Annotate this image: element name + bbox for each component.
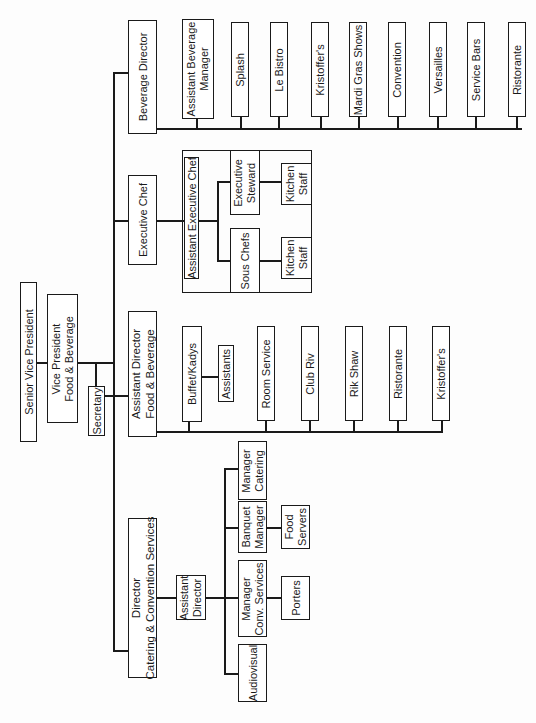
node-versailles: Versailles — [429, 22, 447, 117]
connector — [205, 597, 238, 599]
node-mardi-gras-shows: Mardi Gras Shows — [349, 22, 367, 117]
node-convention: Convention — [388, 22, 406, 117]
node-executive-steward: Executive Steward — [230, 150, 260, 215]
connector — [267, 597, 281, 599]
connector — [113, 220, 128, 222]
connector — [156, 220, 184, 222]
node-senior-vice-president: Senior Vice President — [20, 282, 37, 442]
connector — [156, 128, 522, 130]
connector — [397, 420, 399, 432]
node-label: Sous Chefs — [239, 232, 252, 289]
connector — [224, 468, 238, 470]
node-label: Beverage Director — [136, 33, 149, 122]
connector — [437, 116, 439, 129]
node-banquet-manager: Banquet Manager — [238, 501, 267, 553]
node-manager-catering: Manager Catering — [238, 441, 267, 500]
connector — [196, 118, 198, 129]
connector — [95, 362, 97, 387]
node-food-servers: Food Servers — [281, 505, 310, 549]
node-ristorante-fb: Ristorante — [389, 326, 407, 421]
node-director-catering-convention: Director Catering & Convention Services — [128, 518, 157, 678]
node-label: Kitchen Staff — [284, 240, 310, 277]
node-label: Executive Steward — [232, 159, 258, 207]
node-label: Assistant Beverage Manager — [185, 22, 211, 117]
node-label: Service Bars — [470, 38, 483, 100]
node-sous-chefs: Sous Chefs — [230, 228, 260, 293]
node-label: Assistants — [220, 348, 233, 398]
node-label: Assistant Director Food & Beverage — [129, 329, 157, 419]
node-vice-president-food-beverage: Vice President Food & Beverage — [47, 294, 78, 423]
connector — [113, 650, 128, 652]
node-label: Buffet/Kadys — [186, 343, 199, 405]
node-label: Food Servers — [283, 508, 309, 546]
node-service-bars: Service Bars — [467, 22, 485, 117]
node-label: Ristorante — [511, 44, 524, 94]
connector — [320, 116, 322, 129]
node-assistants: Assistants — [218, 345, 234, 402]
node-assistant-director-catering: Assistant Director — [176, 575, 206, 620]
connector — [105, 395, 128, 397]
node-beverage-director: Beverage Director — [128, 20, 157, 134]
node-label: Versailles — [432, 46, 445, 93]
node-label: Banquet Manager — [240, 505, 266, 548]
connector — [441, 420, 443, 432]
node-label: Senior Vice President — [22, 309, 35, 415]
node-label: Manager Conv. Services — [240, 562, 266, 635]
node-label: Porters — [289, 580, 302, 615]
node-ristorante-beverage: Ristorante — [508, 22, 526, 117]
node-label: Secretary — [90, 387, 103, 434]
node-label: Assistant Executive Chef — [185, 157, 198, 279]
node-audiovisual: Audiovisual — [238, 644, 267, 702]
connector — [156, 431, 443, 433]
connector — [224, 468, 226, 674]
node-assistant-beverage-manager: Assistant Beverage Manager — [182, 19, 214, 119]
node-assistant-executive-chef: Assistant Executive Chef — [184, 157, 199, 279]
connector — [267, 527, 281, 529]
connector — [278, 116, 280, 129]
node-label: Room Service — [260, 339, 273, 408]
node-manager-conv-services: Manager Conv. Services — [238, 560, 267, 637]
node-buffet-kadys: Buffet/Kadys — [182, 326, 202, 422]
node-label: Le Bistro — [273, 48, 286, 91]
connector — [202, 376, 218, 378]
connector — [156, 597, 176, 599]
node-label: Assistant Director — [178, 575, 204, 620]
connector — [475, 116, 477, 129]
node-rik-shaw: Rik Shaw — [345, 326, 363, 421]
node-assistant-director-food-beverage: Assistant Director Food & Beverage — [128, 311, 157, 437]
node-kitchen-staff-steward: Kitchen Staff — [281, 163, 312, 205]
node-le-bistro: Le Bistro — [270, 22, 288, 117]
node-label: Kristoffer's — [435, 348, 448, 399]
node-label: Manager Catering — [240, 449, 266, 492]
node-label: Convention — [391, 42, 404, 98]
node-label: Executive Chef — [136, 183, 149, 257]
node-kristoffers-beverage: Kristoffer's — [311, 22, 329, 117]
org-chart: Senior Vice President Vice President Foo… — [0, 0, 536, 723]
node-label: Director Catering & Convention Services — [129, 517, 157, 680]
node-label: Vice President Food & Beverage — [50, 316, 76, 402]
node-label: Ristorante — [392, 348, 405, 398]
node-splash: Splash — [231, 22, 249, 117]
node-executive-chef: Executive Chef — [128, 175, 157, 265]
connector — [224, 527, 238, 529]
connector — [113, 72, 115, 650]
node-kristoffers-fb: Kristoffer's — [432, 326, 450, 421]
node-kitchen-staff-sous: Kitchen Staff — [281, 237, 312, 279]
connector — [358, 116, 360, 129]
connector — [265, 420, 267, 432]
node-room-service: Room Service — [257, 326, 275, 421]
node-label: Club Riv — [304, 353, 317, 395]
node-label: Audiovisual — [246, 645, 259, 701]
node-label: Rik Shaw — [348, 350, 361, 396]
node-club-riv: Club Riv — [301, 326, 319, 421]
node-secretary: Secretary — [88, 386, 105, 436]
connector — [113, 72, 128, 74]
connector — [224, 673, 238, 675]
connector — [397, 116, 399, 129]
connector — [240, 116, 242, 129]
node-porters: Porters — [281, 576, 310, 620]
node-label: Splash — [234, 53, 247, 87]
connector — [353, 420, 355, 432]
connector — [309, 420, 311, 432]
connector — [188, 422, 190, 432]
